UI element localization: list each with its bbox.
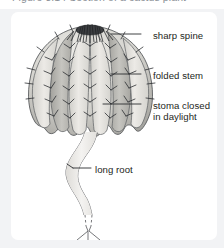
label-stoma-line-1: stoma closed (153, 100, 210, 111)
figure-panel: sharp spine folded stem stoma closedin d… (11, 12, 217, 240)
root-fork-tip (77, 226, 100, 240)
figure-caption-text: Figure 3.14 Section of a cactus plant (12, 0, 186, 3)
label-stoma-line-2: in daylight (153, 111, 197, 122)
label-stoma-closed-in-daylight: stoma closedin daylight (153, 100, 210, 122)
label-folded-stem: folded stem (153, 70, 203, 81)
cactus-stem-group (25, 24, 155, 136)
cactus-diagram (11, 12, 217, 240)
label-long-root: long root (95, 164, 133, 175)
root-taproot-fill (66, 132, 97, 215)
label-sharp-spine: sharp spine (153, 30, 203, 41)
long-root-group (66, 132, 100, 240)
figure-caption-clipped: Figure 3.14 Section of a cactus plant (0, 0, 224, 9)
root-break-dashes (85, 215, 92, 226)
